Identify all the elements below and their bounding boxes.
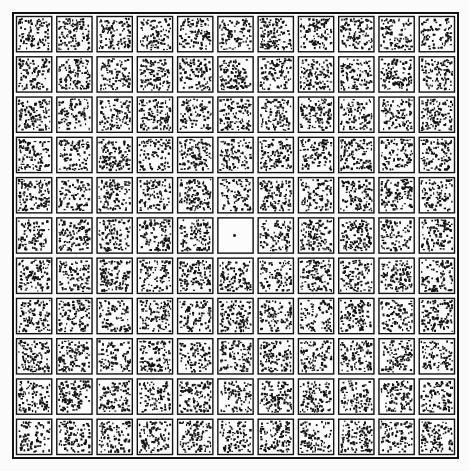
grid-canvas: [14, 14, 457, 457]
stimulus-figure: [0, 0, 469, 471]
dot-texture-grid: [12, 12, 459, 459]
